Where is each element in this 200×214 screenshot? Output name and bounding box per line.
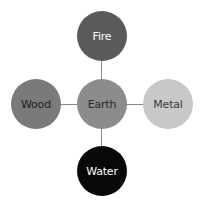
node-label-fire: Fire <box>93 30 112 43</box>
node-fire: Fire <box>77 11 127 61</box>
node-label-water: Water <box>86 165 118 178</box>
node-earth: Earth <box>77 79 127 129</box>
edge-earth-water <box>101 128 102 148</box>
edge-earth-fire <box>101 60 102 80</box>
node-wood: Wood <box>11 79 61 129</box>
edge-earth-metal <box>126 104 144 105</box>
node-label-wood: Wood <box>21 98 51 111</box>
node-label-earth: Earth <box>88 98 117 111</box>
node-label-metal: Metal <box>153 98 182 111</box>
node-metal: Metal <box>143 79 193 129</box>
edge-earth-wood <box>60 104 78 105</box>
node-water: Water <box>77 146 127 196</box>
